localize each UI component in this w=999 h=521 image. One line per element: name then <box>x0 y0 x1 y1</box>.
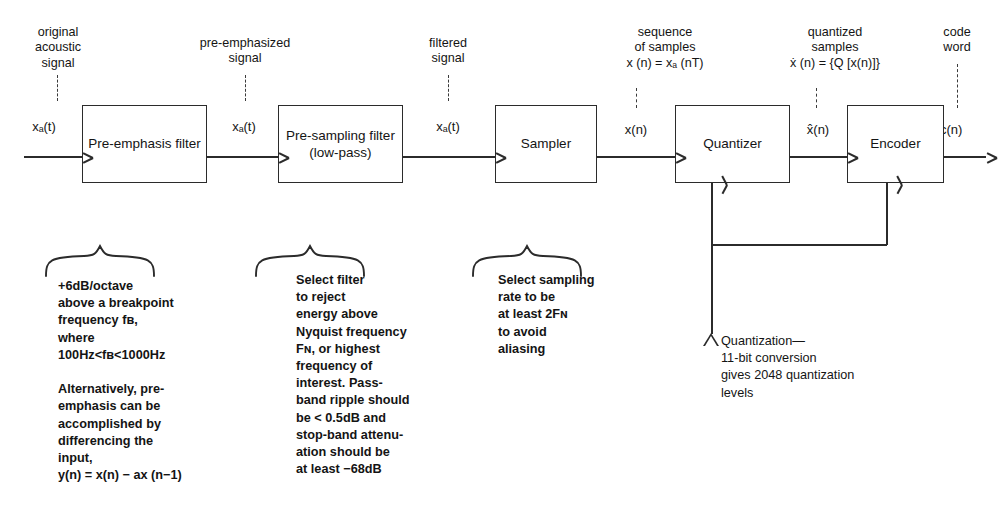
block-encoder[interactable]: Encoder <box>847 105 944 183</box>
connector-quantization-bus <box>711 244 887 246</box>
connector-pre-emphasis-to-pre-sampling <box>207 156 278 158</box>
block-label-quantizer: Quantizer <box>699 135 766 152</box>
block-label-pre-emphasis-filter: Pre-emphasis filter <box>84 135 205 152</box>
quantization-triangle-icon <box>703 333 719 346</box>
interstage-leader-pre-emphasized <box>245 75 246 101</box>
interstage-caption-samples: sequence of samples x (n) = xₐ (nT) <box>572 25 758 71</box>
annotation-pre-sampling-note: Select filter to reject energy above Nyq… <box>296 272 476 478</box>
signal-label-samples: x(n) <box>608 122 664 137</box>
block-quantizer[interactable]: Quantizer <box>675 105 790 183</box>
block-label-sampler: Sampler <box>517 135 575 152</box>
connector-quantization-to-encoder <box>886 183 888 245</box>
connector-pre-sampling-to-sampler <box>403 156 495 158</box>
brace-pre-emphasis <box>46 246 154 276</box>
connector-input-to-pre-emphasis <box>24 156 82 158</box>
block-label-pre-sampling-filter: Pre-sampling filter (low-pass) <box>279 127 402 162</box>
signal-label-pre-emphasized: xₐ(t) <box>216 119 272 134</box>
block-pre-sampling-filter[interactable]: Pre-sampling filter (low-pass) <box>278 105 403 183</box>
annotation-sampler-note: Select sampling rate to be at least 2Fɴ … <box>498 272 668 358</box>
block-label-encoder: Encoder <box>866 135 924 152</box>
connector-quantization-to-quantizer <box>711 183 713 245</box>
interstage-caption-pre-emphasized: pre-emphasized signal <box>181 36 309 67</box>
signal-label-input: xₐ(t) <box>16 119 72 134</box>
signal-label-quantized: x̂(n) <box>790 122 846 137</box>
signal-label-filtered: xₐ(t) <box>420 119 476 134</box>
block-sampler[interactable]: Sampler <box>495 105 597 183</box>
connector-sampler-to-quantizer <box>597 156 675 158</box>
interstage-caption-quantized: quantized samples ẋ (n) = {Q [x(n)]} <box>742 25 928 71</box>
input-leader-line <box>57 75 58 101</box>
output-leader-line <box>957 64 958 108</box>
annotation-pre-emphasis-note: +6dB/octave above a breakpoint frequency… <box>58 278 243 484</box>
connector-quantizer-to-encoder <box>790 156 847 158</box>
connector-encoder-to-output <box>944 156 986 158</box>
signal-label-output: c(n) <box>940 122 992 137</box>
connector-quantization-stem <box>711 244 713 334</box>
interstage-caption-filtered: filtered signal <box>392 36 504 67</box>
output-caption: code word <box>916 25 998 56</box>
annotation-quantization-note: Quantization— 11-bit conversion gives 20… <box>721 333 983 402</box>
block-diagram-figure: original acoustic signal pre-emphasized … <box>0 0 999 521</box>
input-caption: original acoustic signal <box>0 25 116 71</box>
interstage-leader-samples <box>636 88 637 108</box>
interstage-leader-quantized <box>816 88 817 108</box>
block-pre-emphasis-filter[interactable]: Pre-emphasis filter <box>82 105 207 183</box>
interstage-leader-filtered <box>448 75 449 101</box>
